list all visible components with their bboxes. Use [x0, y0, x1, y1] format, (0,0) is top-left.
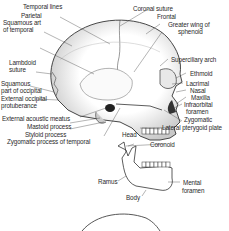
second-skull-outline	[82, 214, 160, 231]
label-maxilla: Maxilla	[191, 94, 210, 101]
label-ramus: Ramus	[98, 178, 117, 185]
label-squamous-temporal-1: Squamous art	[3, 19, 41, 26]
label-squamous-occipital-2: part of occipital	[1, 87, 42, 94]
label-body: Body	[126, 194, 140, 201]
label-greater-wing-1: Greater wing of	[168, 21, 210, 28]
label-mastoid: Mastoid process	[27, 123, 71, 130]
label-lateral-pterygoid: Lateral pterygoid plate	[162, 124, 222, 131]
label-zygomatic: Zygomatic	[184, 116, 212, 123]
label-temporal-lines: Temporal lines	[23, 3, 62, 10]
label-parietal: Parietal	[21, 12, 42, 19]
label-greater-wing-2: sphenoid	[178, 28, 203, 35]
label-coronoid: Coronoid	[150, 141, 175, 148]
label-lambdoid-1: Lambdoid	[9, 59, 36, 66]
label-lambdoid-2: suture	[9, 66, 26, 73]
label-squamous-occipital-1: Squamous	[1, 80, 30, 87]
label-coronal: Coronal suture	[133, 5, 173, 12]
label-ext-occipital-2: protuberance	[1, 102, 37, 109]
label-ethmoid: Ethmoid	[190, 70, 212, 77]
label-infraorbital-2: foramen	[186, 108, 208, 115]
acoustic-meatus	[105, 104, 115, 112]
label-mental-1: Mental	[183, 179, 201, 186]
label-mental-2: foramen	[182, 187, 204, 194]
label-infraorbital-1: Infraorbital	[184, 101, 213, 108]
label-superciliary: Superciliary arch	[171, 56, 216, 63]
label-squamous-temporal-2: of temporal	[3, 26, 33, 33]
label-zygomatic-temporal: Zygomatic process of temporal	[7, 138, 90, 145]
label-styloid: Styloid process	[25, 131, 66, 138]
label-nasal: Nasal	[190, 87, 206, 94]
label-frontal: Frontal	[157, 13, 176, 20]
lower-teeth	[142, 162, 170, 167]
label-ext-occipital-1: External occipital	[1, 95, 47, 102]
label-head: Head	[122, 131, 137, 138]
skull-lateral-diagram: Temporal lines Parietal Squamous art of …	[0, 0, 229, 231]
label-ext-acoustic: External acoustic meatus	[2, 115, 70, 122]
label-lacrimal: Lacrimal	[186, 80, 209, 87]
